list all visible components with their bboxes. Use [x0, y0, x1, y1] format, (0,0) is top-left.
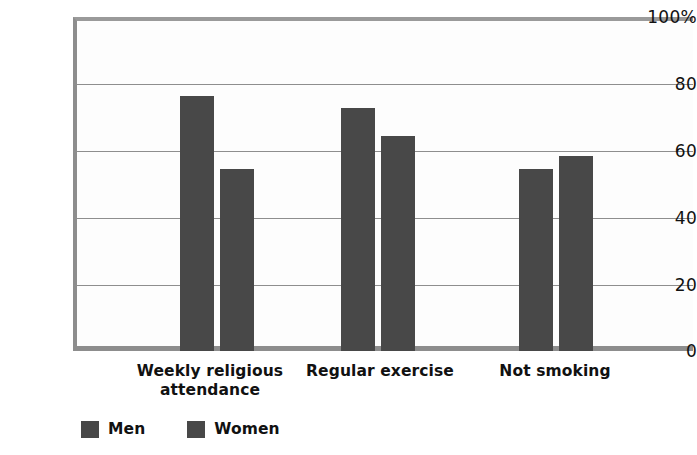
bar-not-smoking-men — [519, 169, 553, 351]
bar-not-smoking-women — [559, 156, 593, 351]
category-label-line: Not smoking — [475, 362, 635, 381]
category-label-not-smoking: Not smoking — [475, 362, 635, 381]
legend-label-women: Women — [214, 420, 279, 438]
category-label-regular-exercise: Regular exercise — [300, 362, 460, 381]
legend-label-men: Men — [108, 420, 145, 438]
legend-item-men: Men — [81, 420, 145, 438]
category-label-line: attendance — [130, 381, 290, 400]
category-label-line: Weekly religious — [130, 362, 290, 381]
bar-weekly-religious-attendance-men — [180, 96, 214, 351]
category-label-weekly-religious-attendance: Weekly religious attendance — [130, 362, 290, 400]
legend-swatch-icon — [187, 421, 205, 438]
bar-regular-exercise-women — [381, 136, 415, 351]
bar-chart: 100% 80 60 40 20 0 Weekly religious atte… — [0, 0, 697, 455]
bar-weekly-religious-attendance-women — [220, 169, 254, 351]
bars-layer — [0, 0, 697, 351]
category-label-line: Regular exercise — [300, 362, 460, 381]
chart-legend: Men Women — [73, 414, 693, 444]
bar-regular-exercise-men — [341, 108, 375, 351]
legend-swatch-icon — [81, 421, 99, 438]
legend-item-women: Women — [187, 420, 279, 438]
